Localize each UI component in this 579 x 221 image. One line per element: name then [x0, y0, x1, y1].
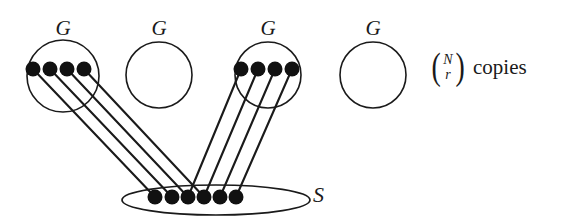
group-circle-2 [126, 42, 192, 108]
figure-canvas: G G G G S ( N r ) copies [0, 0, 579, 221]
copies-annotation: ( N r ) copies [430, 52, 527, 82]
group3-node-3 [268, 62, 283, 77]
group-label-2: G [139, 18, 179, 39]
set-node-3 [181, 190, 196, 205]
set-node-6 [229, 190, 244, 205]
edge-left-2 [50, 69, 172, 197]
edge-right-2 [204, 69, 258, 197]
set-label-s: S [313, 184, 324, 206]
group3-node-1 [234, 62, 249, 77]
edge-left-1 [33, 69, 155, 197]
edge-right-4 [236, 69, 292, 197]
group-label-4: G [353, 18, 393, 39]
binomial-left-paren: ( [432, 53, 441, 82]
group3-node-2 [251, 62, 266, 77]
edge-left-3 [67, 69, 188, 197]
group-circle-4 [340, 42, 406, 108]
edge-left-4 [84, 69, 204, 197]
nodes-layer [26, 62, 300, 205]
copies-word: copies [473, 55, 527, 80]
set-node-1 [148, 190, 163, 205]
edge-right-3 [220, 69, 275, 197]
set-node-4 [197, 190, 212, 205]
group1-node-2 [43, 62, 58, 77]
binomial-right-paren: ) [455, 53, 464, 82]
edges-layer [33, 69, 292, 197]
set-node-5 [213, 190, 228, 205]
group3-node-4 [285, 62, 300, 77]
edge-right-1 [188, 69, 241, 197]
group1-node-4 [77, 62, 92, 77]
group1-node-1 [26, 62, 41, 77]
binomial-top: N [443, 52, 452, 67]
binomial-stack: N r [442, 52, 453, 82]
group-label-3: G [248, 18, 288, 39]
set-node-2 [165, 190, 180, 205]
binomial-coefficient: ( N r ) [430, 52, 466, 82]
diagram-svg [0, 0, 579, 221]
group1-node-3 [60, 62, 75, 77]
binomial-bottom: r [445, 67, 450, 82]
group-label-1: G [43, 18, 83, 39]
